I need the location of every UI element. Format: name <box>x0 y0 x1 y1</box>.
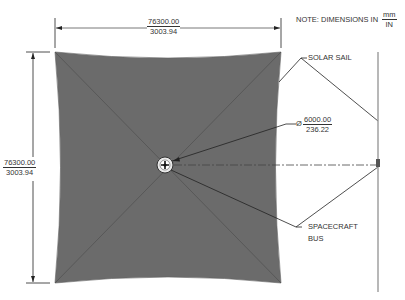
height-dimension: 76300.00 3003.94 <box>3 158 36 177</box>
arrow-down-icon <box>31 276 35 282</box>
spacecraft-bus-leader-to-side <box>296 167 378 227</box>
arrow-right-icon <box>274 26 280 30</box>
spacecraft-bus-label-line2: BUS <box>308 234 323 243</box>
solar-sail-drawing <box>0 0 405 300</box>
unit-mm: mm <box>382 10 397 20</box>
height-mm: 76300.00 <box>3 158 36 168</box>
bus-diameter-dimension: 6000.00 236.22 <box>303 115 332 134</box>
spacecraft-bus-hub <box>163 163 166 166</box>
solar-sail-label: SOLAR SAIL <box>308 53 352 62</box>
dimensions-note: NOTE: DIMENSIONS IN <box>296 15 378 24</box>
spacecraft-bus-label-line1: SPACECRAFT <box>308 222 358 231</box>
diameter-symbol: Ø <box>296 119 302 128</box>
width-dimension: 76300.00 3003.94 <box>147 17 180 36</box>
arrow-left-icon <box>56 26 62 30</box>
arrow-up-icon <box>31 53 35 59</box>
width-in: 3003.94 <box>147 27 180 36</box>
width-mm: 76300.00 <box>147 17 180 27</box>
unit-in: IN <box>382 20 397 29</box>
side-view-bus <box>376 159 380 167</box>
bus-diameter-mm: 6000.00 <box>303 115 332 125</box>
bus-diameter-in: 236.22 <box>303 125 332 134</box>
solar-sail-leader-to-sail <box>279 58 307 82</box>
solar-sail-leader-to-side <box>301 58 378 121</box>
height-in: 3003.94 <box>3 168 36 177</box>
unit-fraction: mm IN <box>382 10 397 29</box>
